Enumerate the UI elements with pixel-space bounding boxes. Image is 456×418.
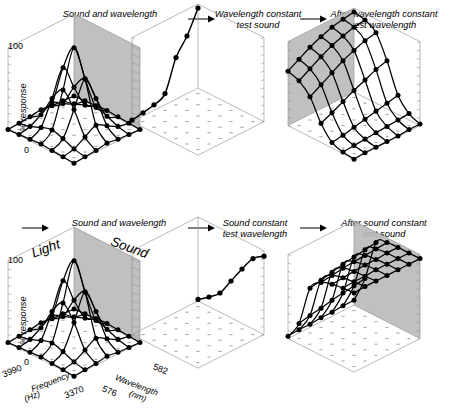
plot-panel-sound-and-wavelength-bottom[interactable] xyxy=(8,239,178,399)
line-plot-svg xyxy=(178,239,290,404)
surface-plot-svg xyxy=(288,239,456,404)
y-axis-label-top: % response xyxy=(18,83,28,132)
surface-plot-svg xyxy=(8,239,178,404)
figure-root: Sound and wavelength Wavelength constant… xyxy=(0,0,456,418)
figure-row-top: Sound and wavelength Wavelength constant… xyxy=(0,0,456,209)
panel-title-bottom-2: Sound constant test wavelength xyxy=(200,218,310,241)
figure-row-bottom: Sound and wavelength Sound constant test… xyxy=(0,209,456,418)
panel-title-bottom-1: Sound and wavelength xyxy=(52,218,186,229)
y-tick-100-top: 100 xyxy=(8,41,23,51)
plot-panel-sound-constant-test-wavelength[interactable] xyxy=(178,239,290,399)
surface-plot-svg xyxy=(288,26,456,191)
y-tick-100-bottom: 100 xyxy=(8,255,23,265)
panel-title-top-1: Sound and wavelength xyxy=(34,9,186,20)
plot-panel-after-wavelength-constant-test-wavelength[interactable] xyxy=(288,26,456,191)
line-plot-svg xyxy=(178,26,290,191)
plot-panel-sound-and-wavelength-top[interactable] xyxy=(8,26,178,191)
y-tick-0-bottom: 0 xyxy=(24,357,29,367)
plot-panel-wavelength-constant-test-sound[interactable] xyxy=(178,26,290,191)
y-axis-label-bottom: % response xyxy=(18,296,28,345)
flow-arrow-icon xyxy=(22,223,50,235)
plot-panel-after-sound-constant-test-sound[interactable] xyxy=(288,239,456,399)
surface-plot-svg xyxy=(8,26,178,191)
y-tick-0-top: 0 xyxy=(24,145,29,155)
